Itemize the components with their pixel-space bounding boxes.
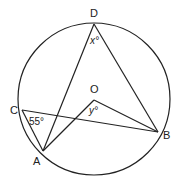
- angle-label-x: x°: [89, 35, 99, 46]
- angle-label-55: 55°: [29, 116, 44, 127]
- point-label-D: D: [90, 7, 98, 19]
- diagram-canvas: D O C A B 55° x° y°: [0, 0, 178, 183]
- segment-AO: [43, 100, 94, 151]
- segment-AD: [43, 24, 94, 151]
- circle-geometry-diagram: D O C A B 55° x° y°: [0, 0, 178, 183]
- angle-label-y: y°: [88, 105, 98, 116]
- point-label-B: B: [163, 129, 170, 141]
- point-label-O: O: [90, 83, 99, 95]
- point-label-A: A: [33, 155, 41, 167]
- point-label-C: C: [10, 104, 18, 116]
